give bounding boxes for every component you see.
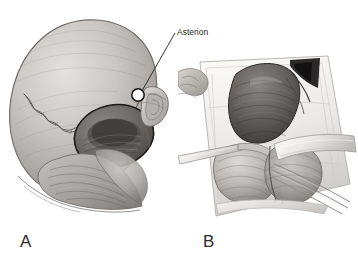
panel-b-surgical-exposure-illustration [178,48,358,226]
asterion-callout-label: Asterion [177,27,208,37]
panel-label-b: B [203,232,214,252]
panel-label-a: A [20,232,31,252]
asterion-marker [132,89,144,101]
figure-container: Asterion [0,0,358,266]
panel-a-skull-illustration [0,0,200,225]
